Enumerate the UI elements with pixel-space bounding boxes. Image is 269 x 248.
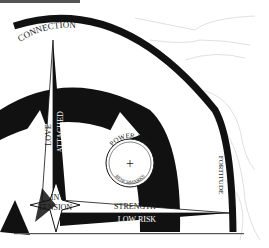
label-strength: STRENGTH xyxy=(114,202,156,211)
label-tension: TENSION xyxy=(38,203,72,212)
label-low-risk: LOW RISK xyxy=(118,215,157,224)
label-attached: ATTACHED xyxy=(56,111,65,153)
label-love: LOVE xyxy=(44,124,53,145)
label-fortitude: FORTITUDE xyxy=(217,156,225,194)
ring-notch xyxy=(0,170,40,200)
label-in: IN xyxy=(51,193,60,202)
ring-notch xyxy=(0,200,30,235)
top-rule xyxy=(0,0,80,3)
compass-diagram: CONNECTION LOVE ATTACHED STRENGTH LOW RI… xyxy=(0,0,269,248)
plus-icon: + xyxy=(126,156,134,171)
bottom-rule xyxy=(14,233,244,234)
